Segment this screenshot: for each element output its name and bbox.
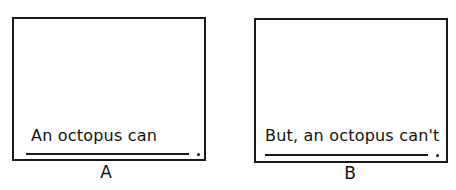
panel-b-answer-blank[interactable]	[265, 154, 428, 156]
panel-b-period	[436, 154, 439, 157]
panel-a-label: A	[96, 162, 116, 182]
panel-b: But, an octopus can't	[254, 18, 448, 163]
panel-a: An octopus can	[12, 17, 206, 161]
panel-b-prompt: But, an octopus can't	[265, 126, 440, 145]
panel-b-label: B	[340, 163, 360, 183]
panel-a-period	[197, 153, 200, 156]
panel-a-answer-blank[interactable]	[26, 153, 189, 155]
panel-a-prompt: An octopus can	[31, 126, 157, 145]
